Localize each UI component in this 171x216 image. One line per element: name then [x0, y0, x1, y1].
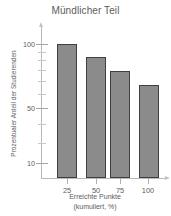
x-axis-tick — [120, 178, 121, 184]
bar-50 — [86, 57, 106, 178]
chart-title: Mündlicher Teil — [0, 5, 171, 16]
y-axis-minor-tick — [38, 124, 46, 125]
y-axis-minor-tick — [38, 52, 46, 53]
bar-100 — [139, 85, 159, 178]
x-axis-tick — [67, 178, 68, 184]
y-axis-minor-tick — [38, 94, 46, 95]
x-axis-title-line2: (kumuliert, %) — [30, 202, 160, 212]
x-axis-title-line1: Erreichte Punkte — [69, 193, 121, 200]
x-axis-arrow-icon — [165, 176, 170, 180]
y-axis-tick-label: 50 — [27, 104, 35, 113]
plot-area: 1005010 255075100 — [41, 26, 166, 178]
y-axis-tick — [36, 44, 48, 45]
y-axis-title: Prozentualer Anteil der Studierenden — [10, 29, 17, 179]
y-axis-line — [41, 26, 42, 178]
bar-chart: Mündlicher Teil Prozentualer Anteil der … — [0, 0, 171, 216]
y-axis-tick-label: 10 — [27, 159, 35, 168]
x-axis-title: Erreichte Punkte (kumuliert, %) — [30, 192, 160, 212]
bar-75 — [110, 71, 130, 178]
y-axis-arrow-icon — [39, 22, 43, 27]
y-axis-tick-label: 100 — [23, 40, 35, 49]
y-axis-tick — [36, 108, 48, 109]
y-axis-minor-tick — [38, 143, 46, 144]
x-axis-tick — [148, 178, 149, 184]
y-axis-tick — [36, 163, 48, 164]
bar-25 — [57, 44, 77, 178]
x-axis-tick — [96, 178, 97, 184]
y-axis-minor-tick — [38, 60, 46, 61]
y-axis-minor-tick — [38, 81, 46, 82]
y-axis-minor-tick — [38, 70, 46, 71]
